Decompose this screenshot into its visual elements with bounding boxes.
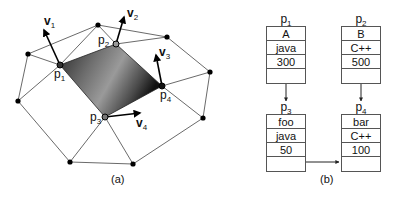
cell: java	[267, 129, 305, 143]
cell: 500	[342, 55, 380, 69]
label-v2: v2	[127, 6, 138, 22]
cell: C++	[342, 41, 380, 55]
cell: bar	[342, 115, 380, 129]
record-p4: bar C++ 100	[341, 114, 381, 172]
label-p1: p1	[54, 67, 65, 83]
label-v4: v4	[136, 116, 147, 132]
cell: 50	[267, 143, 305, 157]
pointer-cell	[267, 157, 305, 171]
record-p1: A java 300	[266, 26, 306, 84]
cell: A	[267, 27, 305, 41]
vector-v2	[116, 17, 124, 44]
label-p4: p4	[160, 88, 171, 104]
record-p3: foo java 50	[266, 114, 306, 172]
label-p3: p3	[90, 110, 101, 126]
cell: 300	[267, 55, 305, 69]
caption-b: (b)	[320, 173, 333, 185]
cell: 100	[342, 143, 380, 157]
pointer-cell	[342, 157, 380, 171]
label-v1: v1	[44, 14, 55, 30]
label-p2: p2	[98, 33, 109, 49]
cell: B	[342, 27, 380, 41]
label-v3: v3	[159, 45, 170, 61]
cell: java	[267, 41, 305, 55]
caption-a: (a)	[111, 173, 124, 185]
pointer-cell	[342, 69, 380, 83]
shaded-quad	[60, 44, 162, 117]
pointer-cell	[267, 69, 305, 83]
cell: C++	[342, 129, 380, 143]
cell: foo	[267, 115, 305, 129]
record-p2: B C++ 500	[341, 26, 381, 84]
vector-v1	[44, 30, 60, 65]
